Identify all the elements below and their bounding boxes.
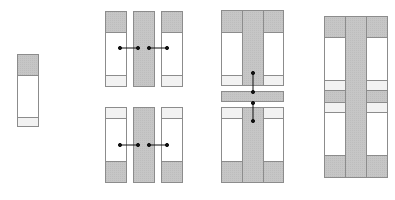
assembly-diagram	[0, 0, 395, 200]
step-4-assembled-frame	[325, 17, 388, 178]
step-2-bottom-row	[106, 108, 183, 183]
step-1-single-panel	[18, 55, 39, 127]
step-2-top-row	[106, 12, 183, 87]
